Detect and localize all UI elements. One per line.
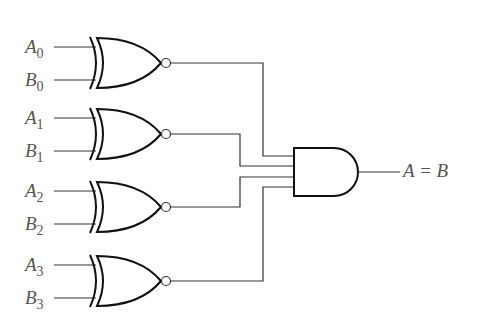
label-b1: B1: [25, 141, 44, 165]
wire-1: [171, 134, 294, 166]
wire-0: [171, 63, 294, 156]
xnor-gate-3: [54, 255, 171, 307]
xnor-gate-2: [54, 181, 171, 233]
label-a0: A0: [25, 37, 44, 61]
wire-3: [171, 187, 294, 281]
wire-2: [171, 177, 294, 207]
label-b3: B3: [25, 288, 44, 312]
label-a2: A2: [25, 181, 44, 205]
output-label: A = B: [403, 160, 448, 182]
xnor-gate-0: [54, 37, 171, 89]
and-gate: [294, 148, 358, 196]
label-b0: B0: [25, 70, 44, 94]
label-a3: A3: [25, 255, 44, 279]
xnor-gate-1: [54, 108, 171, 160]
label-a1: A1: [25, 108, 44, 132]
label-b2: B2: [25, 214, 44, 238]
